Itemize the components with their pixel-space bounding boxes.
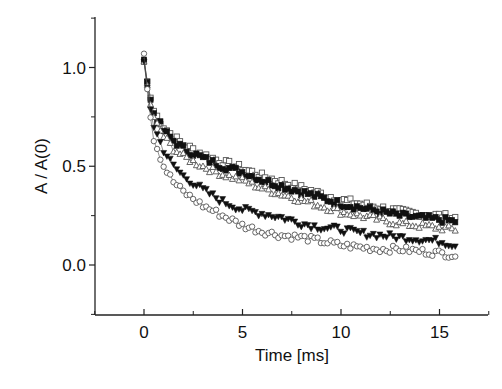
x-tick-label: 0 bbox=[139, 323, 148, 342]
y-tick-label: 1.0 bbox=[62, 59, 86, 78]
x-axis-label: Time [ms] bbox=[255, 346, 329, 365]
x-tick-label: 15 bbox=[430, 323, 449, 342]
decay-chart: 0510150.00.51.0 Time [ms] A / A(0) bbox=[0, 0, 502, 389]
y-axis-label: A / A(0) bbox=[32, 138, 51, 194]
y-tick-label: 0.0 bbox=[62, 256, 86, 275]
plot-series bbox=[141, 51, 458, 260]
x-tick-label: 5 bbox=[238, 323, 247, 342]
y-tick-label: 0.5 bbox=[62, 157, 86, 176]
x-tick-label: 10 bbox=[332, 323, 351, 342]
axes bbox=[95, 17, 488, 315]
